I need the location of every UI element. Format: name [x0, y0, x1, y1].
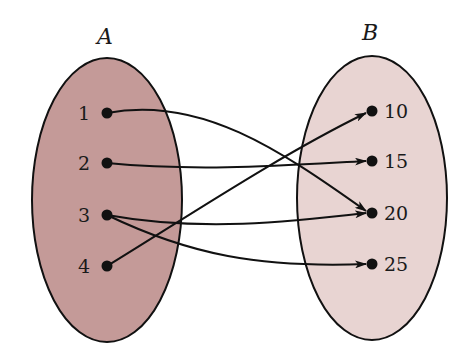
set-a-label: A — [95, 24, 113, 49]
element-b-25: 25 — [384, 253, 408, 275]
element-a-1: 1 — [78, 102, 90, 124]
element-a-3: 3 — [78, 204, 90, 226]
element-b-15: 15 — [384, 150, 408, 172]
element-b-10: 10 — [384, 100, 408, 122]
set-b-ellipse — [297, 56, 447, 340]
set-a-ellipse — [32, 58, 182, 342]
element-a-2: 2 — [78, 152, 90, 174]
mapping-diagram: A B 1 2 3 4 10 15 20 25 — [0, 0, 474, 351]
set-b-label: B — [361, 20, 378, 45]
element-b-20: 20 — [384, 202, 408, 224]
element-a-4: 4 — [78, 255, 90, 277]
